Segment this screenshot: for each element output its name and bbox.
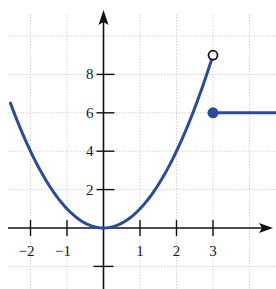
series xyxy=(10,51,276,228)
x-tick-label: 2 xyxy=(173,243,181,259)
y-tick-label: 2 xyxy=(86,182,94,198)
x-tick-label: 1 xyxy=(136,243,144,259)
x-tick-label: 3 xyxy=(209,243,217,259)
x-tick-label: −1 xyxy=(55,243,71,259)
tick-labels: −2−11232468 xyxy=(19,66,217,259)
closed-endpoint xyxy=(208,107,219,118)
y-tick-label: 6 xyxy=(86,105,94,121)
piecewise-function-graph: −2−11232468 xyxy=(0,0,276,289)
ticks xyxy=(31,74,214,266)
y-tick-label: 8 xyxy=(86,66,94,82)
open-endpoint xyxy=(209,51,218,60)
y-tick-label: 4 xyxy=(86,143,94,159)
x-tick-label: −2 xyxy=(19,243,35,259)
parabola-curve xyxy=(10,55,213,228)
